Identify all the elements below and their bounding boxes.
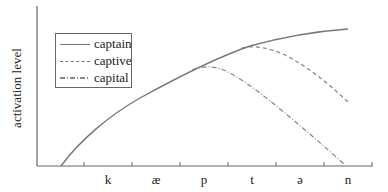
series-captive-line <box>242 47 348 102</box>
x-tick-label: ə <box>290 172 310 188</box>
y-axis-label: activation level <box>9 33 25 143</box>
legend-item-captive: captive <box>60 53 132 69</box>
x-tick-label: p <box>194 172 214 188</box>
x-tick-label: k <box>98 172 118 188</box>
solid-line-icon <box>60 44 90 45</box>
legend-label: captain <box>94 36 132 52</box>
chart-plot <box>0 0 388 192</box>
x-tick-label: æ <box>146 172 166 188</box>
dashed-line-icon <box>60 61 90 62</box>
x-tick-label: t <box>242 172 262 188</box>
legend-label: captive <box>94 53 132 69</box>
legend-item-captain: captain <box>60 36 132 52</box>
legend-item-capital: capital <box>60 70 129 86</box>
series-capital-line <box>192 67 344 164</box>
legend: captain captive capital <box>55 33 132 88</box>
dashdot-line-icon <box>60 77 90 79</box>
legend-label: capital <box>94 70 129 86</box>
x-tick-label: n <box>338 172 358 188</box>
